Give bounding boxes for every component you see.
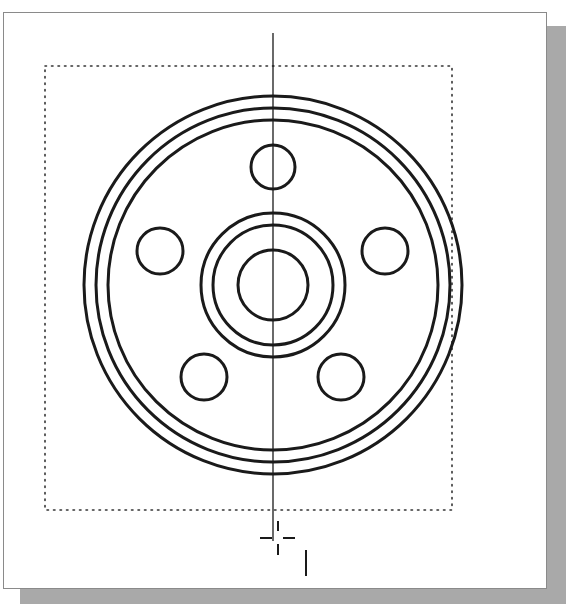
drawing-limits-box xyxy=(45,66,452,510)
bolt-hole-4 xyxy=(181,354,227,400)
crosshair-cursor-icon xyxy=(260,521,295,555)
bolt-hole-2 xyxy=(137,228,183,274)
bolt-hole-5 xyxy=(318,354,364,400)
bolt-hole-3 xyxy=(362,228,408,274)
cad-drawing[interactable] xyxy=(0,0,571,610)
